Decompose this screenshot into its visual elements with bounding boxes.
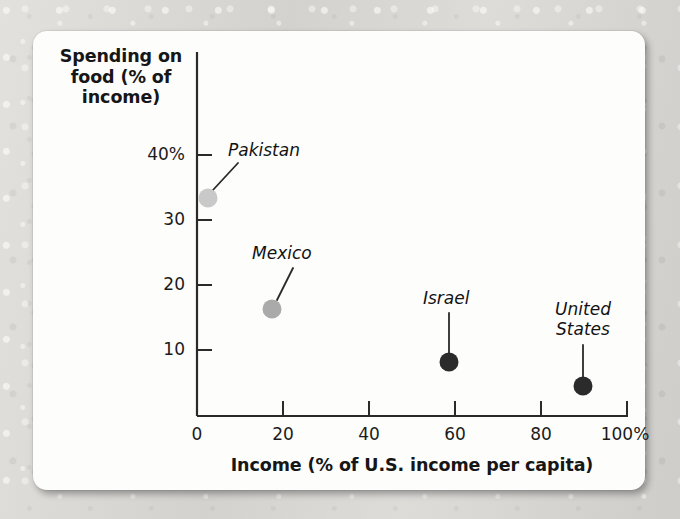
- data-label-israel: Israel: [423, 288, 469, 308]
- data-point-israel: [440, 353, 459, 372]
- y-axis-title-line-2: food (% of: [46, 67, 196, 88]
- x-tick-label-100: 100%: [595, 424, 655, 444]
- data-label-united-states-line-1: United: [538, 299, 628, 319]
- data-point-pakistan: [199, 189, 218, 208]
- data-label-mexico: Mexico: [252, 243, 312, 263]
- y-tick-label-30: 30: [125, 209, 185, 229]
- leader-line-mexico: [277, 268, 293, 300]
- y-axis-title-line-3: income): [46, 87, 196, 108]
- y-tick-label-40: 40%: [125, 144, 185, 164]
- data-label-united-states-line-2: States: [538, 319, 628, 339]
- leader-lines: [213, 163, 583, 378]
- y-axis-title: Spending on food (% of income): [46, 46, 196, 108]
- y-tick-label-20: 20: [125, 274, 185, 294]
- x-tick-label-80: 80: [511, 424, 571, 444]
- y-axis-title-line-1: Spending on: [46, 46, 196, 67]
- x-tick-label-0: 0: [167, 424, 227, 444]
- x-tick-label-20: 20: [253, 424, 313, 444]
- data-point-mexico: [263, 300, 282, 319]
- x-tick-label-40: 40: [339, 424, 399, 444]
- x-axis-ticks: [283, 401, 627, 416]
- data-label-pakistan: Pakistan: [228, 140, 300, 160]
- x-axis-title: Income (% of U.S. income per capita): [197, 455, 627, 475]
- x-tick-label-60: 60: [425, 424, 485, 444]
- y-axis-ticks: [197, 155, 212, 350]
- y-tick-label-10: 10: [125, 339, 185, 359]
- axis-lines: [197, 52, 628, 416]
- data-label-united-states: United States: [538, 299, 628, 339]
- leader-line-pakistan: [213, 163, 238, 190]
- data-point-united-states: [574, 377, 593, 396]
